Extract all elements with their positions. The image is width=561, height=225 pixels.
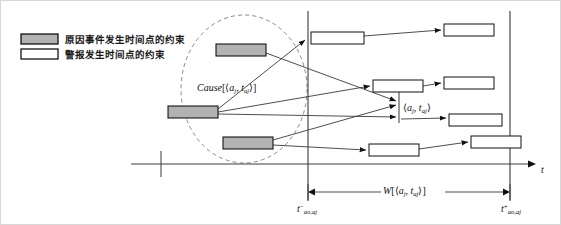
legend-label-cause-event: 原因事件发生时间点的约束 (65, 32, 185, 46)
alarm-box-r2c2 (444, 77, 494, 89)
arrow-r1c1-to-r1c2 (364, 30, 441, 36)
alarm-box-r1c2 (444, 24, 494, 36)
center-tuple-label: ⟨aj, taj⟩ (403, 102, 431, 114)
cause-event-boxes (168, 44, 273, 149)
time-axis (131, 151, 536, 177)
window-label: W[⟨aj, taj⟩] (383, 185, 426, 197)
arrow-c3-to-r4c1 (273, 145, 366, 150)
time-axis-label: t (541, 164, 544, 175)
cause-set-close: ] (253, 82, 256, 93)
cause-set-head: Cause (197, 82, 222, 93)
window-lower-bound-label: t−ao,aj (297, 203, 317, 215)
alarm-box-r1c1 (311, 32, 364, 44)
alarm-box-r2c1 (373, 80, 423, 92)
arrow-c3-to-conv (273, 105, 396, 140)
window-measure-left-arrowhead (308, 189, 315, 196)
window-upper-bound-label: t+ao,aj (501, 203, 521, 215)
cause-event-swatch (21, 34, 58, 44)
alarm-box-r3c2 (449, 114, 502, 126)
cause-box-top (216, 44, 266, 56)
cause-set-label: Cause[⟨aj, taj⟩] (197, 82, 256, 94)
cause-box-middle (168, 106, 218, 118)
cause-box-bottom (223, 137, 273, 149)
alarm-box-r4c2 (471, 136, 521, 148)
window-measure-right-arrowhead (503, 189, 510, 196)
alarm-box-r4c1 (369, 144, 419, 156)
alarm-swatch (21, 49, 58, 59)
timeline-constraint-figure: 原因事件发生时间点的约束 警报发生时间点的约束 Cause[⟨aj, taj⟩]… (0, 0, 561, 225)
window-close: ] (422, 185, 425, 196)
arrow-c1-to-conv (266, 53, 396, 101)
arrow-c2-to-conv (218, 114, 396, 117)
legend-label-alarm: 警报发生时间点的约束 (65, 47, 165, 61)
t-upper-sub: ao,aj (508, 208, 521, 215)
legend-swatches (21, 34, 58, 59)
center-tuple-close: ⟩ (427, 102, 431, 113)
alarm-boxes (311, 24, 521, 156)
arrow-conv-to-r3c2 (401, 118, 446, 119)
arrow-r4c1-to-r4c2 (419, 142, 468, 149)
t-lower-sub: ao,aj (304, 208, 317, 215)
arrow-r2c1-to-r2c2 (423, 83, 441, 86)
